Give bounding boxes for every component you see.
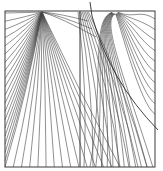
- field-line: [5, 12, 42, 13]
- right-source-field-lines: [78, 12, 155, 167]
- field-line: [42, 12, 104, 167]
- field-line: [107, 14, 130, 167]
- field-line: [42, 12, 71, 167]
- field-line: [42, 12, 95, 167]
- field-line: [118, 13, 155, 51]
- field-line: [118, 13, 155, 30]
- field-line: [78, 12, 85, 167]
- field-line: [117, 13, 155, 71]
- field-line: [117, 14, 155, 83]
- field-line: [42, 12, 79, 167]
- field-line-diagram: [0, 0, 163, 171]
